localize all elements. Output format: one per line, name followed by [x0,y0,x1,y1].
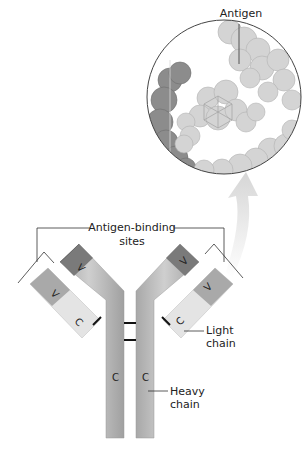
heavy-chain-label-line1: Heavy [170,386,205,398]
light-chain-label-line1: Light [206,325,233,337]
binding-sites-label-line2: sites [88,236,176,248]
disulfide-bonds [93,317,170,340]
zoom-arrow-icon [226,172,258,278]
heavy-chain-label-line2: chain [170,399,200,411]
antigen-label: Antigen [218,8,264,20]
heavy-chain-left [60,244,124,438]
antigen-zoom-circle [147,20,302,181]
svg-text:C: C [112,372,119,383]
binding-sites-label-line1: Antigen-binding [88,222,176,234]
light-chain-label-line2: chain [206,338,236,350]
svg-text:C: C [142,372,149,383]
